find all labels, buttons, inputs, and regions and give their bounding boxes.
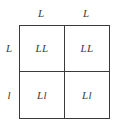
punnett-cell: Ll <box>65 72 109 118</box>
column-allele-label-2: L <box>79 8 93 19</box>
punnett-grid: LL LL Ll Ll <box>19 25 110 119</box>
punnett-cell: LL <box>65 26 109 72</box>
punnett-square-figure: L L L l LL LL Ll Ll <box>0 0 116 124</box>
row-allele-label-1: L <box>2 43 16 54</box>
row-allele-label-2: l <box>2 90 16 101</box>
column-allele-label-1: L <box>34 8 48 19</box>
punnett-cell: Ll <box>20 72 65 118</box>
punnett-cell: LL <box>20 26 65 72</box>
